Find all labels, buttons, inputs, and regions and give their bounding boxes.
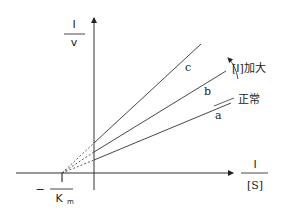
intercept-sign: −	[35, 183, 44, 196]
inhibitor-increase-note: [I]加大	[232, 61, 266, 75]
y-label-denominator: v	[71, 36, 78, 49]
line-b-label: b	[204, 85, 211, 98]
y-label-numerator: I	[72, 18, 75, 31]
normal-leader-line	[214, 98, 234, 106]
x-label-numerator: I	[253, 158, 256, 171]
lineweaver-burk-diagram: I v I [S] − K m c b a [I]加大 正常	[0, 0, 290, 217]
line-a-label: a	[215, 109, 222, 122]
line-c-label: c	[185, 61, 191, 74]
line-a-extrapolation	[62, 160, 94, 173]
intercept-denominator: K	[55, 192, 63, 205]
line-b	[94, 71, 226, 152]
normal-note: 正常	[238, 93, 260, 106]
line-c-extrapolation	[62, 143, 94, 173]
x-label-denominator: [S]	[247, 179, 263, 192]
line-c	[94, 44, 201, 143]
line-b-extrapolation	[62, 152, 94, 173]
diagram-svg: I v I [S] − K m c b a [I]加大 正常	[0, 0, 290, 217]
line-a	[94, 103, 231, 160]
intercept-subscript: m	[67, 198, 74, 206]
